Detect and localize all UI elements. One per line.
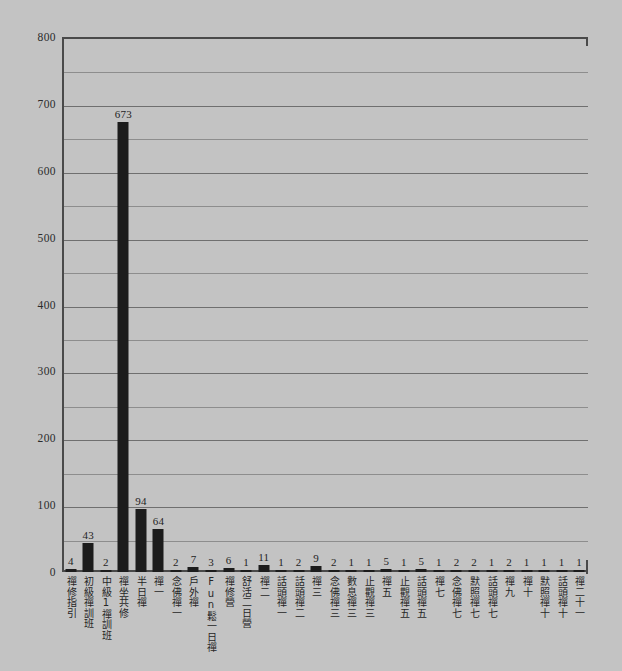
bar: [293, 570, 304, 572]
x-axis-category-label: 禪修營: [223, 576, 234, 608]
bar: [223, 568, 234, 572]
bar-value-label: 2: [296, 556, 302, 568]
bar-slot: 673: [115, 37, 133, 572]
bar: [539, 570, 550, 572]
x-axis-label-slot: 念佛禪三: [325, 576, 343, 668]
bar-slot: 2: [465, 37, 483, 572]
bar: [276, 570, 287, 572]
bar: [486, 570, 497, 572]
bar-value-label: 1: [348, 556, 354, 568]
bar-slot: 2: [290, 37, 308, 572]
bar: [241, 570, 252, 572]
bar-value-label: 64: [153, 515, 164, 527]
bar-slot: 2: [325, 37, 343, 572]
bar-value-label: 1: [436, 556, 442, 568]
x-axis-category-label: 禪坐共修: [118, 576, 129, 618]
bar-slot: 2: [167, 37, 185, 572]
bar-slot: 2: [448, 37, 466, 572]
bar-value-label: 1: [489, 556, 495, 568]
x-axis-label-slot: 數息禪三: [343, 576, 361, 668]
bar-value-label: 94: [135, 495, 146, 507]
x-axis-category-label: 戶外禪: [188, 576, 199, 608]
x-axis-label-slot: 禪修指引: [62, 576, 80, 668]
bar-slot: 1: [395, 37, 413, 572]
bar-value-label: 11: [258, 551, 269, 563]
x-axis-category-label: 初級禪訓班: [83, 576, 94, 629]
bar: [328, 570, 339, 572]
y-axis-tick-label: 800: [4, 31, 56, 43]
x-axis-label-slot: 默照禪十: [535, 576, 553, 668]
x-axis-category-label: 數息禪三: [346, 576, 357, 618]
x-axis-label-slot: 禪七: [430, 576, 448, 668]
bar-slot: 1: [570, 37, 588, 572]
x-axis-label-slot: 話頭禪十: [553, 576, 571, 668]
x-axis-label-slot: 禪修營: [220, 576, 238, 668]
bar: [433, 570, 444, 572]
bar: [170, 570, 181, 572]
y-axis: 0100200300400500600700800: [0, 37, 56, 572]
bar: [416, 569, 427, 572]
bar-value-label: 2: [331, 556, 337, 568]
bar: [258, 565, 269, 572]
x-axis-category-label: 念佛禪七: [451, 576, 462, 618]
bar-value-label: 5: [419, 555, 425, 567]
bar-value-label: 1: [576, 556, 582, 568]
bar: [118, 122, 129, 572]
y-axis-tick-label: 300: [4, 365, 56, 377]
bar: [556, 570, 567, 572]
bar: [311, 566, 322, 572]
y-axis-tick-label: 700: [4, 98, 56, 110]
x-axis-label-slot: 禪十: [518, 576, 536, 668]
x-axis-label-slot: Fun鬆一日禪: [202, 576, 220, 668]
x-axis-label-slot: 話頭禪二: [290, 576, 308, 668]
x-axis-label-slot: 禪二: [255, 576, 273, 668]
x-axis-label-slot: 禪三: [307, 576, 325, 668]
x-axis-category-label: 話頭禪十: [556, 576, 567, 618]
bar-slot: 1: [360, 37, 378, 572]
x-axis-category-label: 話頭禪五: [416, 576, 427, 618]
x-axis-category-label: 念佛禪三: [328, 576, 339, 618]
bar-value-label: 7: [191, 553, 197, 565]
bar-value-label: 1: [278, 556, 284, 568]
bar-value-label: 9: [313, 552, 319, 564]
x-axis-category-label: 禪五: [381, 576, 392, 597]
x-axis-category-label: 默照禪十: [539, 576, 550, 618]
x-axis-category-label: 中級1禪訓班: [100, 576, 111, 640]
x-axis-label-slot: 念佛禪一: [167, 576, 185, 668]
x-axis-label-slot: 止觀禪三: [360, 576, 378, 668]
x-axis-category-label: 念佛禪一: [170, 576, 181, 618]
bar-value-label: 1: [366, 556, 372, 568]
bar-value-label: 4: [68, 555, 74, 567]
x-axis-label-slot: 止觀禪五: [395, 576, 413, 668]
bar-slot: 43: [80, 37, 98, 572]
bar-slot: 6: [220, 37, 238, 572]
bar-slot: 2: [97, 37, 115, 572]
bar: [398, 570, 409, 572]
x-axis-category-labels: 禪修指引初級禪訓班中級1禪訓班禪坐共修半日禪禪一念佛禪一戶外禪Fun鬆一日禪禪修…: [62, 576, 588, 668]
bar: [100, 570, 111, 572]
bar: [188, 567, 199, 572]
x-axis-label-slot: 話頭禪一: [272, 576, 290, 668]
bar: [521, 570, 532, 572]
x-axis-label-slot: 戶外禪: [185, 576, 203, 668]
x-axis-category-label: 止觀禪三: [363, 576, 374, 618]
bar-value-label: 2: [103, 556, 109, 568]
bar: [83, 543, 94, 572]
bar: [363, 570, 374, 572]
bar-value-label: 2: [506, 556, 512, 568]
x-axis-category-label: 禪一: [153, 576, 164, 597]
bar-value-label: 1: [524, 556, 530, 568]
bar-slot: 5: [378, 37, 396, 572]
x-axis-label-slot: 話頭禪七: [483, 576, 501, 668]
bar-value-label: 2: [471, 556, 477, 568]
bar-value-label: 5: [384, 555, 390, 567]
bar-value-label: 3: [208, 556, 214, 568]
x-axis-category-label: 禪十: [521, 576, 532, 597]
bar: [153, 529, 164, 572]
y-axis-tick-label: 100: [4, 499, 56, 511]
bar: [135, 509, 146, 572]
x-axis-label-slot: 禪九: [500, 576, 518, 668]
bar-slot: 7: [185, 37, 203, 572]
bar-slot: 1: [343, 37, 361, 572]
bar-value-label: 673: [115, 108, 132, 120]
